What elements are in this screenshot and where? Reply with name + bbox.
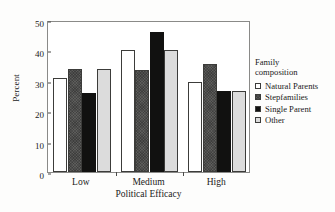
bar[interactable]: [188, 82, 202, 172]
plot-inner: 01020304050: [48, 22, 249, 172]
x-axis-category-label: High: [207, 177, 226, 187]
bar[interactable]: [121, 50, 135, 172]
x-axis-title: Political Efficacy: [47, 189, 250, 199]
y-axis-tick: 30: [35, 74, 48, 92]
y-axis-title: Percent: [11, 53, 21, 123]
legend-item[interactable]: Other: [255, 115, 335, 127]
legend-swatch-icon: [255, 117, 261, 123]
bar[interactable]: [164, 50, 178, 172]
bar[interactable]: [150, 32, 164, 172]
bar-group: [48, 22, 116, 172]
y-axis-tick: 40: [35, 43, 48, 61]
x-axis-tick-mark: [116, 172, 117, 176]
legend-item[interactable]: Stepfamilies: [255, 92, 335, 104]
legend: Family composition Natural ParentsStepfa…: [255, 57, 335, 126]
y-axis-tick-label: 10: [35, 141, 48, 151]
x-axis-category-label: Medium: [132, 177, 164, 187]
legend-swatch-icon: [255, 106, 261, 112]
y-axis-tick-label: 50: [35, 19, 48, 29]
legend-item[interactable]: Single Parent: [255, 103, 335, 115]
plot-area: 01020304050: [47, 21, 250, 173]
x-axis-tick-mark: [183, 172, 184, 176]
legend-swatch-icon: [255, 94, 261, 100]
bar[interactable]: [53, 78, 67, 172]
bar[interactable]: [82, 93, 96, 172]
legend-swatch-icon: [255, 83, 261, 89]
bar[interactable]: [232, 91, 246, 172]
bar[interactable]: [68, 69, 82, 172]
y-axis-tick: 50: [35, 13, 48, 31]
x-axis-category-label: Low: [72, 177, 89, 187]
bar-chart-figure: Percent 01020304050 Political Efficacy F…: [0, 0, 335, 212]
y-axis-tick: 20: [35, 104, 48, 122]
y-axis-tick-label: 20: [35, 110, 48, 120]
y-axis-tick-label: 0: [40, 171, 49, 181]
legend-title: Family composition: [255, 57, 335, 77]
bar[interactable]: [203, 64, 217, 172]
bar-group: [183, 22, 251, 172]
y-axis-tick: 0: [40, 165, 49, 183]
bar[interactable]: [135, 70, 149, 172]
bar-group: [116, 22, 184, 172]
legend-entries: Natural ParentsStepfamiliesSingle Parent…: [255, 80, 335, 126]
legend-item-label: Natural Parents: [265, 81, 318, 91]
y-axis-tick: 10: [35, 135, 48, 153]
legend-item-label: Other: [265, 115, 285, 125]
legend-item[interactable]: Natural Parents: [255, 80, 335, 92]
y-axis-tick-label: 30: [35, 80, 48, 90]
bar[interactable]: [97, 69, 111, 172]
bar[interactable]: [217, 91, 231, 172]
y-axis-tick-mark: [48, 174, 51, 175]
legend-item-label: Stepfamilies: [265, 92, 308, 102]
y-axis-tick-label: 40: [35, 49, 48, 59]
legend-item-label: Single Parent: [265, 104, 311, 114]
